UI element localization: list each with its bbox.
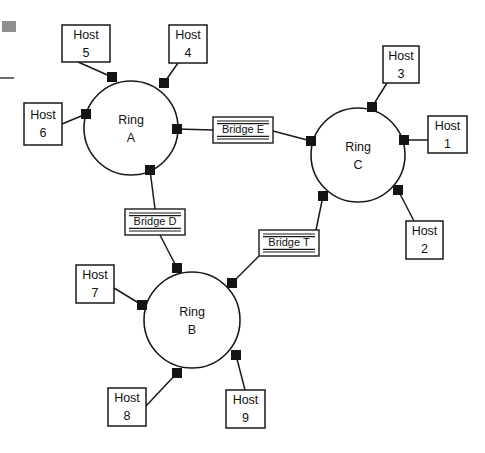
host-9-label-line1: Host xyxy=(233,393,259,407)
ring-node-b-n3[interactable] xyxy=(138,301,147,310)
host-7[interactable]: Host7 xyxy=(76,265,114,303)
network-diagram: RingARingCRingB Bridge EBridge DBridge T… xyxy=(0,0,485,453)
link-bridge-e-to-a-n4 xyxy=(177,129,213,130)
bridge-e-label: Bridge E xyxy=(222,123,264,135)
host-6-label-line2: 6 xyxy=(40,126,47,140)
host-8[interactable]: Host8 xyxy=(108,388,146,426)
link-bridge-e-to-c-n2 xyxy=(273,131,311,141)
bridge-d[interactable]: Bridge D xyxy=(125,209,185,235)
host-4-label-line1: Host xyxy=(175,28,201,42)
ring-node-b-n1[interactable] xyxy=(173,264,182,273)
ring-a-label-line2: A xyxy=(127,131,136,145)
ring-node-a-n5[interactable] xyxy=(146,166,155,175)
hosts-layer: Host1Host2Host3Host4Host5Host6Host7Host8… xyxy=(24,25,467,428)
host-9-label-line2: 9 xyxy=(242,411,249,425)
ring-node-c-n2[interactable] xyxy=(307,137,316,146)
scan-mark-square xyxy=(2,21,16,32)
scan-mark-dash xyxy=(0,77,14,79)
host-3-label-line1: Host xyxy=(388,49,414,63)
ring-node-a-n1[interactable] xyxy=(108,73,117,82)
ring-node-c-n1[interactable] xyxy=(368,103,377,112)
ring-b-label-line1: Ring xyxy=(179,305,205,319)
diagram-canvas: RingARingCRingB Bridge EBridge DBridge T… xyxy=(0,0,485,453)
host-8-label-line1: Host xyxy=(114,391,140,405)
ring-node-a-n2[interactable] xyxy=(160,79,169,88)
bridge-d-label: Bridge D xyxy=(134,215,177,227)
ring-a-circle xyxy=(84,81,178,175)
ring-node-a-n3[interactable] xyxy=(82,110,91,119)
host-2-label-line1: Host xyxy=(412,224,438,238)
host-6-label-line1: Host xyxy=(30,108,56,122)
link-host-5-to-a-n1 xyxy=(78,62,112,77)
ring-c: RingC xyxy=(311,108,405,202)
link-bridge-t-to-c-n4 xyxy=(316,196,323,230)
host-1-label-line1: Host xyxy=(435,119,461,133)
ring-b-circle xyxy=(144,272,240,368)
link-bridge-d-to-a-n5 xyxy=(150,170,155,209)
host-5[interactable]: Host5 xyxy=(62,25,110,62)
host-4[interactable]: Host4 xyxy=(169,25,207,63)
ring-node-b-n4[interactable] xyxy=(232,351,241,360)
ring-node-c-n5[interactable] xyxy=(394,186,403,195)
host-6[interactable]: Host6 xyxy=(24,103,62,145)
host-5-label-line1: Host xyxy=(73,28,99,42)
ring-c-label-line1: Ring xyxy=(345,140,371,154)
host-3[interactable]: Host3 xyxy=(383,46,419,83)
ring-b: RingB xyxy=(144,272,240,368)
host-5-label-line2: 5 xyxy=(83,46,90,60)
host-2-label-line2: 2 xyxy=(421,242,428,256)
ring-b-label-line2: B xyxy=(188,323,196,337)
bridge-t[interactable]: Bridge T xyxy=(259,230,319,256)
host-4-label-line2: 4 xyxy=(185,46,192,60)
ring-c-label-line2: C xyxy=(353,158,362,172)
host-8-label-line2: 8 xyxy=(124,409,131,423)
host-9[interactable]: Host9 xyxy=(226,390,265,428)
ring-node-c-n3[interactable] xyxy=(400,136,409,145)
artifacts-layer xyxy=(0,21,16,79)
host-1[interactable]: Host1 xyxy=(428,116,467,153)
ring-a-label-line1: Ring xyxy=(118,113,144,127)
ring-node-a-n4[interactable] xyxy=(173,125,182,134)
host-7-label-line1: Host xyxy=(82,268,108,282)
ring-node-b-n2[interactable] xyxy=(228,279,237,288)
ring-c-circle xyxy=(311,108,405,202)
ring-node-b-n5[interactable] xyxy=(173,369,182,378)
host-7-label-line2: 7 xyxy=(92,286,99,300)
bridge-e[interactable]: Bridge E xyxy=(213,117,273,143)
ring-a: RingA xyxy=(84,81,178,175)
link-host-9-to-b-n4 xyxy=(236,355,245,390)
bridge-t-label: Bridge T xyxy=(268,236,310,248)
host-3-label-line2: 3 xyxy=(398,67,405,81)
ring-node-c-n4[interactable] xyxy=(319,192,328,201)
host-2[interactable]: Host2 xyxy=(406,221,443,259)
host-1-label-line2: 1 xyxy=(444,137,451,151)
